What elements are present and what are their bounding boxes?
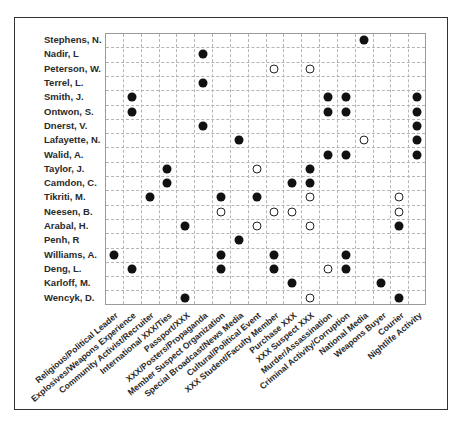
row-label: Neesen, B. (44, 206, 93, 218)
grid-hline (106, 262, 425, 263)
filled-circle-marker (163, 164, 172, 173)
grid-vline (283, 34, 284, 304)
open-circle-marker (306, 193, 315, 202)
filled-circle-marker (306, 179, 315, 188)
row-label: Camdon, C. (44, 177, 97, 189)
filled-circle-marker (199, 79, 208, 88)
grid-hline (106, 248, 425, 249)
filled-circle-marker (127, 107, 136, 116)
filled-circle-marker (359, 36, 368, 45)
filled-circle-marker (270, 250, 279, 259)
row-label: Terrel, L. (44, 77, 83, 89)
open-circle-marker (270, 207, 279, 216)
grid-hline (106, 147, 425, 148)
grid-hline (106, 47, 425, 48)
row-label: Walid, A. (44, 149, 83, 161)
filled-circle-marker (270, 264, 279, 273)
filled-circle-marker (413, 136, 422, 145)
grid-hline (106, 205, 425, 206)
filled-circle-marker (341, 107, 350, 116)
row-label: Stephens, N. (44, 34, 102, 46)
grid-vline (337, 34, 338, 304)
grid-hline (106, 133, 425, 134)
row-label: Lafayette, N. (44, 134, 101, 146)
filled-circle-marker (216, 193, 225, 202)
filled-circle-marker (341, 264, 350, 273)
filled-circle-marker (127, 264, 136, 273)
open-circle-marker (395, 207, 404, 216)
open-circle-marker (395, 193, 404, 202)
grid-vline (390, 34, 391, 304)
grid-vline (408, 34, 409, 304)
filled-circle-marker (216, 264, 225, 273)
grid-vline (301, 34, 302, 304)
grid-vline (319, 34, 320, 304)
matrix-grid (105, 33, 426, 305)
row-label: Karloff, M. (44, 277, 90, 289)
open-circle-marker (306, 293, 315, 302)
open-circle-marker (288, 207, 297, 216)
filled-circle-marker (288, 279, 297, 288)
open-circle-marker (252, 164, 261, 173)
filled-circle-marker (109, 250, 118, 259)
open-circle-marker (323, 264, 332, 273)
row-label: Penh, R (44, 234, 79, 246)
grid-vline (123, 34, 124, 304)
row-label: Wencyk, D. (44, 292, 95, 304)
filled-circle-marker (288, 179, 297, 188)
grid-hline (106, 190, 425, 191)
filled-circle-marker (145, 193, 154, 202)
grid-vline (266, 34, 267, 304)
grid-hline (106, 105, 425, 106)
grid-vline (230, 34, 231, 304)
grid-hline (106, 162, 425, 163)
filled-circle-marker (395, 293, 404, 302)
row-label: Williams, A. (44, 249, 97, 261)
filled-circle-marker (323, 107, 332, 116)
row-label: Taylor, J. (44, 163, 84, 175)
grid-vline (373, 34, 374, 304)
open-circle-marker (359, 136, 368, 145)
filled-circle-marker (413, 107, 422, 116)
grid-vline (141, 34, 142, 304)
filled-circle-marker (163, 179, 172, 188)
grid-vline (176, 34, 177, 304)
open-circle-marker (216, 207, 225, 216)
grid-vline (355, 34, 356, 304)
grid-hline (106, 119, 425, 120)
filled-circle-marker (395, 222, 404, 231)
filled-circle-marker (377, 279, 386, 288)
grid-hline (106, 90, 425, 91)
open-circle-marker (252, 222, 261, 231)
row-label: Ontwon, S. (44, 106, 94, 118)
filled-circle-marker (413, 93, 422, 102)
filled-circle-marker (252, 193, 261, 202)
grid-hline (106, 276, 425, 277)
filled-circle-marker (413, 121, 422, 130)
filled-circle-marker (216, 250, 225, 259)
filled-circle-marker (199, 50, 208, 59)
filled-circle-marker (127, 93, 136, 102)
filled-circle-marker (341, 250, 350, 259)
grid-hline (106, 76, 425, 77)
grid-hline (106, 290, 425, 291)
row-label: Tikriti, M. (44, 191, 86, 203)
filled-circle-marker (323, 150, 332, 159)
filled-circle-marker (341, 150, 350, 159)
open-circle-marker (270, 64, 279, 73)
grid-vline (194, 34, 195, 304)
row-label: Smith, J. (44, 91, 84, 103)
row-label: Peterson, W. (44, 63, 101, 75)
grid-vline (212, 34, 213, 304)
filled-circle-marker (234, 136, 243, 145)
row-label: Deng, L. (44, 263, 81, 275)
filled-circle-marker (181, 293, 190, 302)
filled-circle-marker (306, 164, 315, 173)
row-label: Arabal, H. (44, 220, 88, 232)
grid-hline (106, 176, 425, 177)
grid-vline (159, 34, 160, 304)
filled-circle-marker (413, 150, 422, 159)
filled-circle-marker (181, 222, 190, 231)
grid-vline (248, 34, 249, 304)
row-label: Dnerst, V. (44, 120, 87, 132)
